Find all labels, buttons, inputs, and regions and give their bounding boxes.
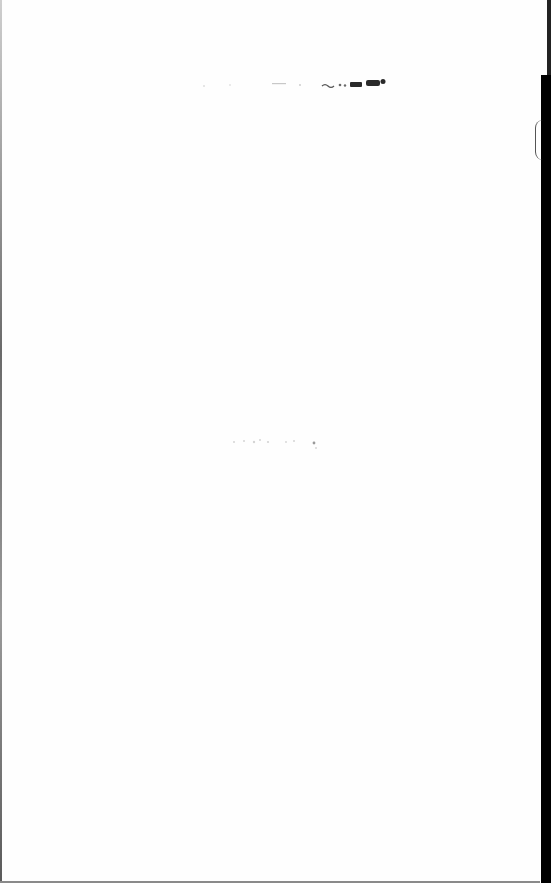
faint-specks-center xyxy=(228,430,328,454)
scan-edge-right-top xyxy=(547,0,551,75)
page-curl xyxy=(535,120,544,160)
scanned-page xyxy=(0,0,551,883)
scan-edge-left xyxy=(0,0,2,883)
scan-edge-right xyxy=(541,75,551,883)
ink-smudge-top xyxy=(200,77,390,93)
